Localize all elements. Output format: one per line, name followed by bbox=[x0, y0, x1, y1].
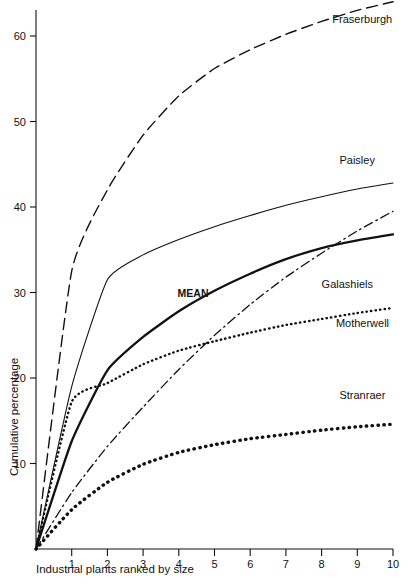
y-tick-label: 30 bbox=[14, 287, 26, 299]
x-tick-label: 9 bbox=[354, 558, 360, 570]
series-label-motherwell: Motherwell bbox=[336, 317, 389, 329]
series-label-paisley: Paisley bbox=[339, 154, 375, 166]
series-label-mean: MEAN bbox=[178, 287, 209, 299]
x-tick-label: 7 bbox=[283, 558, 289, 570]
y-axis-title: Cumulative percentage bbox=[8, 358, 20, 476]
y-tick-label: 40 bbox=[14, 201, 26, 213]
y-tick-label: 50 bbox=[14, 116, 26, 128]
y-tick-label: 60 bbox=[14, 30, 26, 42]
x-tick-label: 5 bbox=[211, 558, 217, 570]
x-tick-label: 6 bbox=[247, 558, 253, 570]
series-label-galashiels: Galashiels bbox=[322, 278, 374, 290]
series-label-stranraer: Stranraer bbox=[339, 389, 385, 401]
x-tick-label: 10 bbox=[387, 558, 399, 570]
x-tick-label: 8 bbox=[319, 558, 325, 570]
chart-canvas: 102030405060 12345678910 FraserburghPais… bbox=[0, 0, 408, 585]
cumulative-percentage-chart: 102030405060 12345678910 FraserburghPais… bbox=[0, 0, 408, 585]
x-axis-title: Industrial plants ranked by size bbox=[36, 563, 194, 575]
series-label-fraserburgh: Fraserburgh bbox=[332, 13, 392, 25]
